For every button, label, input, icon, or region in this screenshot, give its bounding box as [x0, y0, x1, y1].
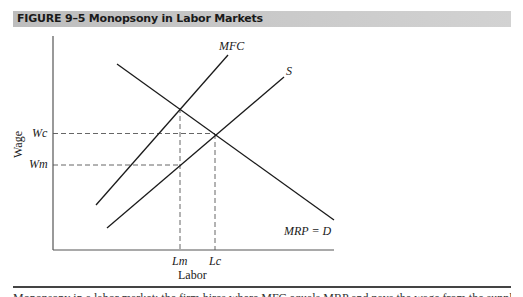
mrp-demand-curve: [117, 64, 334, 220]
lm-tick-label: Lm: [171, 254, 188, 268]
wc-tick-label: Wc: [32, 126, 48, 140]
monopsony-chart: MFC S MRP = D Wc Wm Lm Lc Labor Wage: [0, 0, 523, 297]
s-label: S: [286, 64, 292, 78]
supply-curve: [107, 77, 284, 228]
y-axis-title: Wage: [11, 131, 25, 158]
wm-tick-label: Wm: [29, 157, 48, 171]
mrp-label: MRP = D: [283, 224, 332, 238]
clipped-caption: Monopsony in a labor market: the firm hi…: [13, 291, 511, 297]
mfc-label: MFC: [218, 39, 245, 53]
lc-tick-label: Lc: [208, 254, 222, 268]
x-axis-title: Labor: [178, 268, 207, 282]
bottom-rule: [13, 286, 511, 288]
